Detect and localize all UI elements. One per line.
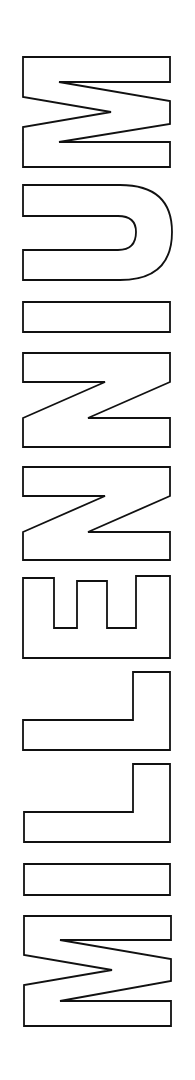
- letter-l-first: [24, 764, 170, 842]
- millennium-letters: [0, 0, 195, 1080]
- letter-n-first: [23, 467, 170, 560]
- letter-e: [23, 576, 170, 658]
- outlined-word-artwork: MILLENNIUM: [0, 0, 195, 1080]
- letter-m-last: [23, 57, 170, 167]
- letter-l-second: [23, 672, 170, 750]
- letter-u: [23, 185, 172, 280]
- letter-i-first: [24, 864, 170, 895]
- letter-n-second: [23, 353, 170, 447]
- letter-i-second: [23, 302, 170, 332]
- letter-m-first: [24, 916, 171, 1026]
